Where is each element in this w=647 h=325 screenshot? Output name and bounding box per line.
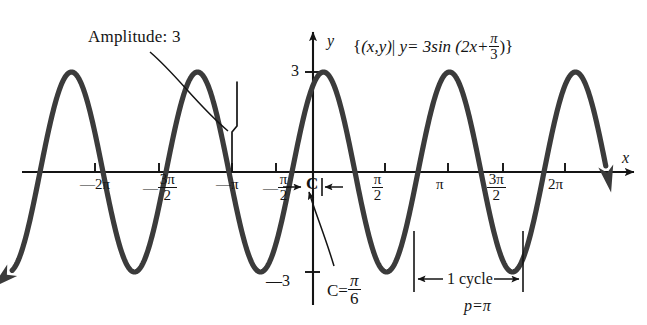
- fraction-pi-2-negative: π2: [278, 172, 289, 204]
- amplitude-indicator: [232, 82, 237, 172]
- x-tick-label-3pi-over-2: 3π2: [487, 172, 506, 204]
- y-tick-label-3: 3: [291, 63, 299, 79]
- equation-body: y= 3sin (2x+: [400, 37, 489, 56]
- x-tick-label-2pi: 2π: [548, 177, 563, 192]
- x-tick-label-neg-2pi: —2π: [80, 177, 110, 192]
- fraction-3pi-2: 3π2: [158, 172, 177, 204]
- y-tick-label-neg3: —3: [266, 273, 290, 289]
- c-marker-label: C: [306, 175, 318, 192]
- equation-annotation: {(x,y)| y= 3sin (2x+π3)}: [353, 31, 513, 62]
- equation-bar: |: [392, 37, 395, 56]
- period-annotation: p=π: [464, 298, 491, 314]
- x-axis-label: x: [622, 150, 629, 166]
- sine-plot-svg: [0, 0, 647, 325]
- amplitude-annotation: Amplitude: 3: [88, 28, 181, 45]
- cycle-annotation: 1 cycle: [447, 271, 493, 287]
- x-tick-label-neg-3pi-over-2: —3π2: [143, 172, 177, 204]
- fraction-pi-2: π2: [372, 172, 383, 204]
- curve-arrowhead-right: [598, 164, 613, 192]
- sine-function-figure: Amplitude: 3 {(x,y)| y= 3sin (2x+π3)} y …: [0, 0, 647, 325]
- x-tick-label-pi: π: [436, 177, 444, 192]
- x-tick-label-pi-over-2: π2: [372, 172, 383, 204]
- equation-open-brace: {: [353, 37, 361, 56]
- equation-fraction: π3: [489, 31, 500, 62]
- fraction-3pi-2-positive: 3π2: [487, 172, 506, 204]
- y-axis-label: y: [327, 33, 334, 49]
- x-tick-label-neg-pi-over-2: —π2: [263, 172, 289, 204]
- equation-close: )}: [499, 37, 513, 56]
- fraction-pi-6: π6: [348, 272, 361, 308]
- equation-set-pair: (x,y): [361, 37, 392, 56]
- x-tick-label-neg-pi: —π: [216, 177, 239, 192]
- c-value-annotation: C=π6: [327, 272, 361, 308]
